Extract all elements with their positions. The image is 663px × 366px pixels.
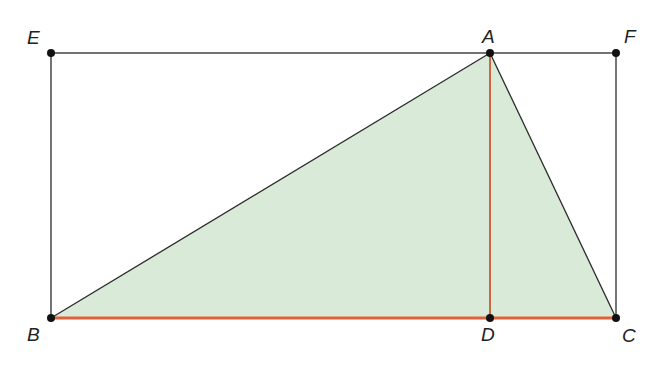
geometry-diagram: E A F B D C bbox=[0, 0, 663, 366]
label-f: F bbox=[624, 27, 636, 46]
label-c: C bbox=[622, 326, 636, 345]
point-f bbox=[612, 49, 620, 57]
point-a bbox=[486, 49, 494, 57]
diagram-canvas bbox=[0, 0, 663, 366]
label-e: E bbox=[27, 28, 40, 47]
label-a: A bbox=[482, 27, 495, 46]
triangle-abc bbox=[51, 53, 616, 318]
point-d bbox=[486, 314, 494, 322]
label-b: B bbox=[27, 325, 40, 344]
point-c bbox=[612, 314, 620, 322]
point-e bbox=[47, 49, 55, 57]
label-d: D bbox=[481, 325, 495, 344]
point-b bbox=[47, 314, 55, 322]
